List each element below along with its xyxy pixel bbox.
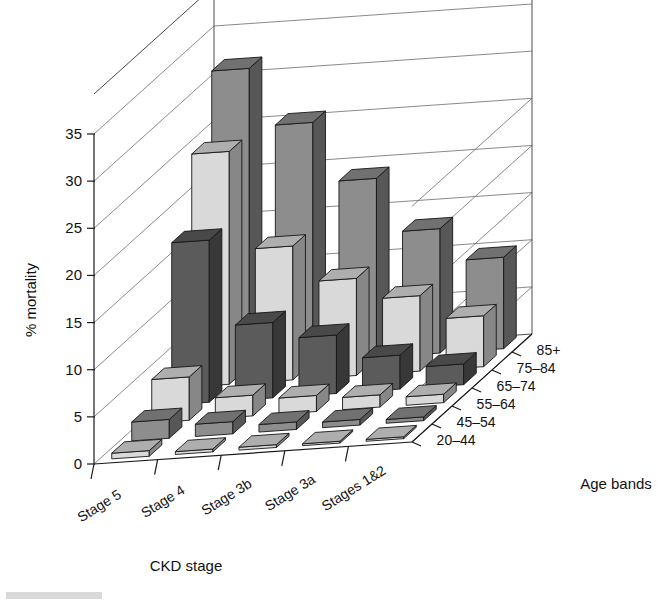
x-category-labels: Stage 5Stage 4Stage 3bStage 3aStages 1&2 — [74, 462, 388, 525]
x-tick-1 — [155, 460, 158, 475]
x-tick-2 — [218, 455, 221, 470]
bar-Stage5-6574-side — [209, 229, 222, 403]
z-tick-3 — [472, 388, 481, 392]
x-tick-4 — [345, 446, 348, 461]
bar-Stage3b-6574-side — [336, 324, 349, 394]
y-tick-label: 15 — [65, 314, 82, 331]
z-tick-2 — [452, 406, 461, 410]
x-category-label-0: Stage 5 — [74, 486, 124, 525]
chart-root: 05101520253035 Stage 5Stage 4Stage 3bSta… — [0, 0, 669, 607]
z-depth-label-2: 55–64 — [477, 396, 516, 412]
bar-Stages12-2044-top — [366, 425, 416, 439]
z-depth-label-5: 85+ — [537, 342, 561, 358]
y-tick-label: 35 — [65, 125, 82, 142]
z-tick-4 — [492, 370, 501, 374]
bar-Stage3a-2044-top — [303, 430, 353, 444]
x-category-label-3: Stage 3a — [262, 471, 318, 514]
gridline-left-35 — [94, 26, 214, 134]
z-tick-0 — [412, 442, 421, 446]
y-tick-label: 0 — [74, 455, 82, 472]
y-tick-label: 5 — [74, 408, 82, 425]
y-tick-label: 25 — [65, 219, 82, 236]
page-scan-artifact — [6, 592, 102, 599]
z-depth-label-3: 65–74 — [497, 378, 536, 394]
bars-layer — [112, 57, 517, 459]
bar-Stages12-4554-top — [386, 406, 436, 420]
x-category-label-1: Stage 4 — [138, 481, 188, 520]
bar-Stage4-6574-side — [273, 311, 286, 398]
z-axis-title: Age bands — [580, 475, 652, 492]
gridline-back-35 — [214, 4, 532, 26]
bar-Stage5-4554-front — [132, 419, 170, 440]
bar-Stage4-2044-top — [175, 438, 225, 452]
y-tick-labels: 05101520253035 — [65, 125, 82, 472]
x-tick-3 — [282, 451, 285, 466]
y-tick-label: 30 — [65, 172, 82, 189]
y-tick-label: 20 — [65, 266, 82, 283]
bar-Stages12-85+-side — [504, 246, 517, 349]
x-tick-0 — [91, 464, 94, 479]
bar-Stage3a-7584-side — [420, 284, 433, 371]
y-axis-title: % mortality — [22, 262, 39, 337]
three-d-bar-chart: 05101520253035 Stage 5Stage 4Stage 3bSta… — [0, 0, 669, 607]
z-depth-label-4: 75–84 — [517, 360, 556, 376]
z-tick-1 — [432, 424, 441, 428]
y-tick-label: 10 — [65, 361, 82, 378]
bar-Stage3b-2044-top — [239, 433, 289, 447]
z-tick-5 — [512, 352, 521, 356]
x-axis-title: CKD stage — [150, 557, 223, 574]
z-depth-label-0: 20–44 — [437, 432, 476, 448]
z-depth-label-1: 45–54 — [457, 414, 496, 430]
x-category-label-2: Stage 3b — [198, 475, 254, 518]
x-category-label-4: Stages 1&2 — [319, 462, 389, 514]
